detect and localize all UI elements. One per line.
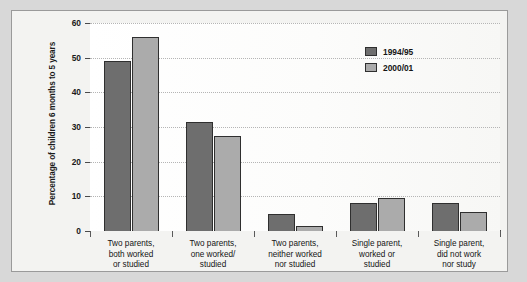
y-tick-label: 40 xyxy=(57,87,81,97)
legend-swatch-icon xyxy=(365,47,377,56)
bar-2000-01[interactable] xyxy=(460,212,487,231)
bar-1994-95[interactable] xyxy=(186,122,213,231)
x-category-label-line: studied xyxy=(172,260,254,271)
y-tick-label: 30 xyxy=(57,122,81,132)
x-category-label: Two parents,neither workednor studied xyxy=(254,239,336,271)
bar-1994-95[interactable] xyxy=(350,203,377,231)
y-tick-label: 0 xyxy=(57,226,81,236)
x-category-label-line: neither worked xyxy=(254,250,336,261)
x-tick-mark xyxy=(172,231,173,237)
x-category-label-line: nor studied xyxy=(254,260,336,271)
chart-panel-inner: Percentage of children 6 months to 5 yea… xyxy=(12,11,507,271)
x-category-label-line: nor study xyxy=(418,260,500,271)
y-tick-label: 20 xyxy=(57,157,81,167)
x-tick-mark xyxy=(418,231,419,237)
x-category-label-line: Single parent, xyxy=(336,239,418,250)
x-tick-mark xyxy=(90,231,91,237)
x-category-label-line: Two parents, xyxy=(172,239,254,250)
bar-group xyxy=(432,23,487,231)
bar-group xyxy=(104,23,159,231)
bar-2000-01[interactable] xyxy=(378,198,405,231)
x-tick-mark xyxy=(336,231,337,237)
x-tick-mark xyxy=(254,231,255,237)
x-category-label: Single parent,did not worknor study xyxy=(418,239,500,271)
x-category-label: Single parent,worked orstudied xyxy=(336,239,418,271)
chart-panel: Percentage of children 6 months to 5 yea… xyxy=(11,10,508,272)
chart-legend: 1994/952000/01 xyxy=(365,45,413,77)
x-category-label-line: worked or xyxy=(336,250,418,261)
bar-2000-01[interactable] xyxy=(132,37,159,231)
bar-1994-95[interactable] xyxy=(268,214,295,231)
x-category-label-line: Single parent, xyxy=(418,239,500,250)
x-category-label-line: both worked xyxy=(90,250,172,261)
legend-label: 1994/95 xyxy=(383,47,413,57)
x-category-label-line: or studied xyxy=(90,260,172,271)
bar-group xyxy=(186,23,241,231)
bar-2000-01[interactable] xyxy=(214,136,241,231)
y-tick-label: 10 xyxy=(57,191,81,201)
legend-item[interactable]: 2000/01 xyxy=(365,61,413,74)
x-category-label: Two parents,one worked/studied xyxy=(172,239,254,271)
x-category-label-line: one worked/ xyxy=(172,250,254,261)
legend-item[interactable]: 1994/95 xyxy=(365,45,413,58)
y-tick-label: 50 xyxy=(57,53,81,63)
y-axis-title: Percentage of children 6 months to 5 yea… xyxy=(48,24,57,224)
plot-area xyxy=(90,23,500,231)
bar-2000-01[interactable] xyxy=(296,226,323,231)
legend-label: 2000/01 xyxy=(383,63,413,73)
x-category-label-line: did not work xyxy=(418,250,500,261)
legend-swatch-icon xyxy=(365,63,377,72)
bar-group xyxy=(268,23,323,231)
x-category-label-line: Two parents, xyxy=(254,239,336,250)
x-category-label-line: studied xyxy=(336,260,418,271)
x-tick-mark xyxy=(500,231,501,237)
x-category-label-line: Two parents, xyxy=(90,239,172,250)
bar-1994-95[interactable] xyxy=(104,61,131,231)
y-tick-label: 60 xyxy=(57,18,81,28)
figure-container: Percentage of children 6 months to 5 yea… xyxy=(0,0,527,282)
x-category-label: Two parents,both workedor studied xyxy=(90,239,172,271)
bar-1994-95[interactable] xyxy=(432,203,459,231)
